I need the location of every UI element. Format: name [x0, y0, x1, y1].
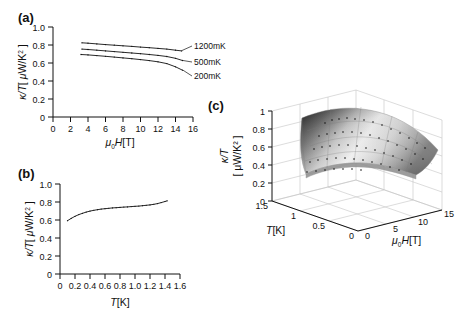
panel-a-x-ticks: 0 2 4 6 8 10 12 14 16	[50, 117, 198, 134]
panel-c-ztick-0.4: 0.4	[252, 161, 265, 171]
panel-c-ttick-0: 0	[349, 231, 354, 241]
panel-b-xtick-1.2: 1.2	[144, 281, 157, 291]
panel-b-ytick-0.4: 0.4	[39, 234, 52, 244]
panel-a-xtick-4: 4	[85, 124, 90, 134]
panel-c-ttick-0.5: 0.5	[312, 221, 325, 231]
panel-c-z-ticks: 1 0.8 0.6 0.4 0.2 0	[252, 107, 272, 207]
panel-a-chart: (a) 1.0 0.8 0.6 0.4 0.2 0	[0, 0, 240, 150]
panel-c-zlab-line1: κ/T	[218, 147, 230, 163]
panel-b-xtick-0: 0	[57, 281, 62, 291]
panel-b-xtick-0.8: 0.8	[114, 281, 127, 291]
svg-text:κ/T[ μW/K2 ]: κ/T[ μW/K2 ]	[23, 201, 35, 257]
panel-a-series-500mK	[81, 48, 183, 61]
panel-c-htick-5: 5	[393, 224, 398, 234]
panel-a-ytick-0.4: 0.4	[32, 77, 45, 87]
panel-a-xlab-unit: [T]	[122, 136, 134, 148]
panel-a-series-label-500mK: 500mK	[194, 57, 221, 67]
panel-b-xtick-0.4: 0.4	[84, 281, 97, 291]
panel-a-y-ticks: 1.0 0.8 0.6 0.4 0.2 0	[32, 23, 53, 123]
panel-a-ytick-0.6: 0.6	[32, 59, 45, 69]
panel-c-h-axis	[358, 210, 442, 231]
panel-a-xtick-8: 8	[120, 124, 125, 134]
panel-a: (a) 1.0 0.8 0.6 0.4 0.2 0	[0, 0, 240, 150]
panel-c-t-axis-title: T[K]	[266, 224, 285, 236]
panel-b-label: (b)	[18, 166, 35, 181]
panel-b-chart: (b) 1.0 0.8 0.6 0.4 0.2 0	[0, 152, 230, 326]
panel-b-ytick-0.6: 0.6	[39, 216, 52, 226]
panel-c-h-axis-title: μ0H[T]	[391, 234, 421, 248]
panel-c-htick-15: 15	[444, 209, 454, 219]
panel-a-xtick-0: 0	[50, 124, 55, 134]
panel-c-htick-0: 0	[365, 231, 370, 241]
panel-b-xtick-0.6: 0.6	[99, 281, 112, 291]
panel-c-ttick-1.0: 1	[291, 211, 296, 221]
panel-a-xtick-16: 16	[188, 124, 198, 134]
panel-a-xtick-14: 14	[170, 124, 180, 134]
panel-a-series-label-200mK: 200mK	[194, 71, 221, 81]
panel-c-ztick-0.8: 0.8	[252, 125, 265, 135]
panel-c-zlab-line2: [ μW/K² ]	[231, 135, 243, 176]
panel-b-xlab-unit: [K]	[117, 296, 130, 308]
panel-b-x-axis-title: T[K]	[110, 296, 129, 308]
panel-c-htick-10: 10	[418, 217, 428, 227]
panel-b-xtick-1.0: 1.0	[129, 281, 142, 291]
panel-a-xtick-12: 12	[153, 124, 163, 134]
panel-c-ztick-1: 1	[260, 107, 265, 117]
panel-c-ztick-0.6: 0.6	[252, 143, 265, 153]
panel-c-tlab-unit: [K]	[272, 224, 285, 236]
panel-b-ytick-1.0: 1.0	[39, 180, 52, 190]
panel-c-label: (c)	[208, 98, 224, 113]
panel-b-ytick-0: 0	[47, 270, 52, 280]
panel-a-leader-lines	[182, 46, 192, 76]
panel-b-ytick-0.8: 0.8	[39, 198, 52, 208]
panel-a-ytick-1.0: 1.0	[32, 23, 45, 33]
panel-b-xtick-1.4: 1.4	[159, 281, 172, 291]
panel-b-xtick-0.2: 0.2	[69, 281, 82, 291]
svg-text:κ/T[ μW/K2 ]: κ/T[ μW/K2 ]	[16, 44, 28, 100]
panel-b: (b) 1.0 0.8 0.6 0.4 0.2 0	[0, 152, 230, 326]
panel-a-markers-500mK	[81, 48, 183, 61]
panel-c-ttick-1.5: 1.5	[255, 201, 268, 211]
panel-a-ytick-0: 0	[40, 113, 45, 123]
panel-c-z-axis-title: κ/T [ μW/K² ]	[218, 135, 243, 176]
figure-root: (a) 1.0 0.8 0.6 0.4 0.2 0	[0, 0, 456, 326]
panel-c-ztick-0.2: 0.2	[252, 179, 265, 189]
panel-c-chart: (c)	[206, 84, 456, 244]
panel-a-xtick-10: 10	[135, 124, 145, 134]
panel-a-y-axis-title: κ/T[ μW/K2 ]	[16, 44, 28, 100]
panel-b-ylab-wk: W/K	[23, 211, 35, 231]
panel-a-x-axis-title: μ0H[T]	[104, 136, 134, 150]
panel-b-markers	[67, 200, 168, 221]
panel-b-ytick-0.2: 0.2	[39, 252, 52, 262]
panel-b-ylab-close: ]	[23, 201, 35, 207]
panel-c: (c)	[206, 84, 456, 244]
panel-b-x-ticks: 0 0.2 0.4 0.6 0.8 1.0 1.2 1.4 1.6	[57, 274, 186, 291]
panel-a-ytick-0.8: 0.8	[32, 41, 45, 51]
panel-c-hlab-unit: [T]	[409, 234, 421, 246]
panel-a-series-label-1200mK: 1200mK	[194, 41, 226, 51]
panel-b-y-axis-title: κ/T[ μW/K2 ]	[23, 201, 35, 257]
panel-b-xtick-1.6: 1.6	[174, 281, 187, 291]
panel-a-ylab-close: ]	[16, 44, 28, 50]
panel-a-xtick-2: 2	[68, 124, 73, 134]
panel-a-ytick-0.2: 0.2	[32, 95, 45, 105]
panel-a-xtick-6: 6	[103, 124, 108, 134]
panel-b-series-curve	[67, 200, 168, 221]
panel-a-ylab-wk: W/K	[16, 54, 28, 74]
panel-b-y-ticks: 1.0 0.8 0.6 0.4 0.2 0	[39, 180, 60, 280]
